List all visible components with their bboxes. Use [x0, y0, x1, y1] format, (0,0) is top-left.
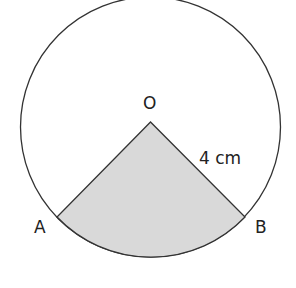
- label-point-a: A: [34, 219, 46, 236]
- diagram-canvas: O 4 cm A B: [0, 0, 296, 288]
- label-point-b: B: [255, 219, 267, 236]
- label-center-o: O: [143, 95, 156, 112]
- circle-sector-figure: [0, 0, 296, 288]
- label-radius: 4 cm: [199, 150, 241, 167]
